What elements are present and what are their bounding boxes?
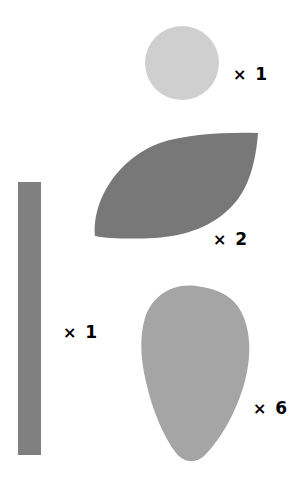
count-label-leaf: × 2 <box>213 231 249 248</box>
count-label-bar: × 1 <box>63 324 99 341</box>
multiplication-sign-circle: × <box>233 65 248 84</box>
count-label-circle: × 1 <box>233 66 269 83</box>
count-value-bar: 1 <box>85 322 98 342</box>
count-value-circle: 1 <box>255 64 268 84</box>
figure-canvas: × 1 × 2 × 1 × 6 <box>0 0 302 492</box>
shape-blob <box>141 286 249 462</box>
count-label-blob: × 6 <box>253 400 289 417</box>
multiplication-sign-blob: × <box>253 399 268 418</box>
shape-leaf <box>95 133 258 239</box>
multiplication-sign-bar: × <box>63 323 78 342</box>
shape-circle <box>145 26 219 100</box>
count-value-leaf: 2 <box>235 229 248 249</box>
multiplication-sign-leaf: × <box>213 230 228 249</box>
shape-bar <box>18 182 41 455</box>
count-value-blob: 6 <box>275 398 288 418</box>
